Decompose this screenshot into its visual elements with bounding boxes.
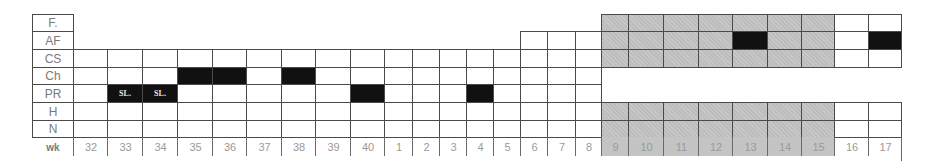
week-label-5-text: 5 [494,141,521,153]
cell-cs-wk11 [663,49,699,68]
week-label-10: 10 [628,137,664,156]
week-label-40-text: 40 [351,141,385,153]
week-label-7: 7 [547,137,576,156]
cell-n-wk16 [834,120,869,138]
cell-h-wk8 [575,102,602,121]
week-label-36: 36 [212,137,247,156]
row-label-pr-text: PR [33,88,73,100]
week-label-35: 35 [177,137,213,156]
cell-cs-wk3 [439,49,467,68]
row-label-cs: CS [32,49,74,68]
cell-af-wk9 [601,31,629,50]
week-label-37: 37 [246,137,282,156]
week-label-39-text: 39 [316,141,351,153]
cell-cs-wk35 [177,49,213,68]
cell-pr-wk34: SL. [142,84,178,103]
cell-cs-wk34 [142,49,178,68]
cell-h-wk17 [868,102,902,121]
week-label-35-text: 35 [178,141,213,153]
cell-n-wk9 [601,120,629,138]
cell-h-wk6 [520,102,548,121]
cell-ch-wk5 [493,67,521,85]
row-label-ch-text: Ch [33,70,73,82]
cell-f-wk16 [834,14,869,32]
cell-n-wk4 [466,120,494,138]
week-label-34-text: 34 [143,141,178,153]
cell-n-wk15 [801,120,835,138]
cell-h-wk7 [547,102,576,121]
week-label-38-text: 38 [282,141,316,153]
cell-h-wk9 [601,102,629,121]
cell-h-wk40 [350,102,385,121]
cell-cs-wk4 [466,49,494,68]
cell-cs-wk1 [384,49,413,68]
cell-n-wk10 [628,120,664,138]
cell-pr-wk33-text: SL. [108,88,142,100]
cell-cs-wk12 [698,49,733,68]
cell-pr-wk39 [315,84,351,103]
cell-cs-wk8 [575,49,602,68]
cell-h-wk13 [732,102,768,121]
week-label-10-text: 10 [629,141,664,153]
cell-af-wk13 [732,31,768,50]
cell-ch-wk37 [246,67,282,85]
cell-n-wk8 [575,120,602,138]
cell-af-wk14 [767,31,802,50]
cell-cs-wk17 [868,49,902,68]
cell-ch-wk2 [412,67,440,85]
row-label-af: AF [32,31,74,50]
week-label-8-text: 8 [576,141,602,153]
row-label-ch: Ch [32,67,74,85]
week-label-5: 5 [493,137,521,156]
cell-pr-wk2 [412,84,440,103]
cell-pr-wk4 [466,84,494,103]
row-label-af-text: AF [33,35,73,47]
cell-n-wk7 [547,120,576,138]
week-label-1: 1 [384,137,413,156]
cell-h-wk4 [466,102,494,121]
cell-ch-wk36 [212,67,247,85]
week-label-9-text: 9 [602,141,629,153]
cell-h-wk35 [177,102,213,121]
cell-h-wk5 [493,102,521,121]
week-label-40: 40 [350,137,385,156]
cell-n-wk1 [384,120,413,138]
row-label-n-text: N [33,123,73,135]
cell-cs-wk6 [520,49,548,68]
cell-af-wk6 [520,31,548,50]
cell-h-wk2 [412,102,440,121]
cell-cs-wk15 [801,49,835,68]
week-label-11: 11 [663,137,699,156]
cell-h-wk1 [384,102,413,121]
cell-h-wk36 [212,102,247,121]
week-label-2-text: 2 [413,141,440,153]
week-label-14: 14 [767,137,802,156]
cell-cs-wk33 [107,49,143,68]
week-label-32: 32 [73,137,108,156]
week-label-15: 15 [801,137,835,156]
week-label-13: 13 [732,137,768,156]
cell-ch-wk6 [520,67,548,85]
week-label-32-text: 32 [74,141,108,153]
cell-cs-wk2 [412,49,440,68]
week-label-6: 6 [520,137,548,156]
cell-ch-wk38 [281,67,316,85]
week-label-15-text: 15 [802,141,835,153]
cell-h-wk37 [246,102,282,121]
cell-h-wk15 [801,102,835,121]
cell-f-wk11 [663,14,699,32]
cell-pr-wk38 [281,84,316,103]
cell-ch-wk34 [142,67,178,85]
cell-h-wk39 [315,102,351,121]
week-label-17: 17 [868,137,902,156]
week-label-36-text: 36 [213,141,247,153]
cell-ch-wk33 [107,67,143,85]
cell-n-wk6 [520,120,548,138]
week-label-2: 2 [412,137,440,156]
cell-ch-wk39 [315,67,351,85]
row-label-h-text: H [33,106,73,118]
cell-af-wk11 [663,31,699,50]
cell-cs-wk7 [547,49,576,68]
row-label-h: H [32,102,74,121]
cell-n-wk32 [73,120,108,138]
